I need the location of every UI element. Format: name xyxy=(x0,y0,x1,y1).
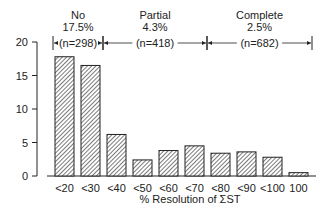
bar-lt50 xyxy=(133,160,152,176)
bar-lt40 xyxy=(107,134,126,176)
annotation-percent: 2.5% xyxy=(247,21,272,33)
y-tick-label: 0 xyxy=(22,170,28,182)
x-axis-label: % Resolution of ΣST xyxy=(140,193,241,205)
x-tick-label: <20 xyxy=(55,182,74,194)
bar-lt100 xyxy=(263,157,282,176)
bar-lt20 xyxy=(55,57,74,176)
bar-lt60 xyxy=(159,151,178,176)
annotation-n: (n=418) xyxy=(136,37,174,49)
x-tick-label: 100 xyxy=(289,182,307,194)
group-annotations: No17.5%(n=298)Partial4.3%(n=418)Complete… xyxy=(53,9,312,50)
x-tick-label: <30 xyxy=(81,182,100,194)
y-tick-label: 10 xyxy=(16,103,28,115)
bar-100 xyxy=(289,173,308,176)
y-tick-label: 5 xyxy=(22,137,28,149)
y-tick-label: 15 xyxy=(16,70,28,82)
annotation-label: Complete xyxy=(236,9,283,21)
annotation-label: No xyxy=(71,9,85,21)
bar-lt80 xyxy=(211,153,230,176)
annotation-label: Partial xyxy=(139,9,170,21)
x-axis: <20<30<40<50<60<70<80<90<100100 xyxy=(47,176,316,194)
annotation-no: No17.5%(n=298) xyxy=(53,9,103,50)
annotation-percent: 17.5% xyxy=(62,21,93,33)
x-tick-label: <100 xyxy=(260,182,285,194)
annotation-n: (n=298) xyxy=(59,37,97,49)
y-axis: 05101520 xyxy=(16,36,37,182)
annotation-n: (n=682) xyxy=(240,37,278,49)
y-tick-label: 20 xyxy=(16,36,28,48)
bar-lt90 xyxy=(237,152,256,176)
bar-chart: 05101520 <20<30<40<50<60<70<80<90<100100… xyxy=(0,0,331,215)
bars xyxy=(55,57,308,176)
annotation-complete: Complete2.5%(n=682) xyxy=(207,9,312,50)
annotation-percent: 4.3% xyxy=(142,21,167,33)
bar-lt30 xyxy=(81,65,100,176)
x-tick-label: <40 xyxy=(107,182,126,194)
bar-lt70 xyxy=(185,146,204,176)
annotation-partial: Partial4.3%(n=418) xyxy=(103,9,207,50)
